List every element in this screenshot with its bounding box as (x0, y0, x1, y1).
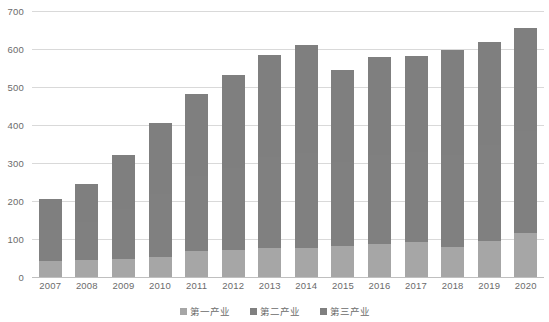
bar-segment[interactable] (258, 248, 281, 277)
bar-segment[interactable] (368, 244, 391, 277)
y-axis: 0100200300400500600700 (0, 11, 28, 277)
legend-item[interactable]: 第三产业 (320, 304, 370, 318)
y-axis-tick-label: 500 (8, 82, 24, 93)
bar-segment[interactable] (222, 250, 245, 277)
bar-segment[interactable] (75, 260, 98, 277)
x-axis-tick-label: 2012 (215, 280, 252, 296)
y-axis-tick-label: 300 (8, 158, 24, 169)
stacked-bar[interactable] (441, 50, 464, 277)
y-axis-tick-label: 700 (8, 6, 24, 17)
x-axis-tick-label: 2010 (142, 280, 179, 296)
bar-slot (471, 11, 508, 277)
bar-slot (178, 11, 215, 277)
bar-segment[interactable] (405, 242, 428, 277)
stacked-bar[interactable] (478, 42, 501, 277)
bar-segment[interactable] (258, 55, 281, 157)
bar-segment[interactable] (258, 157, 281, 248)
x-axis-tick-label: 2020 (508, 280, 545, 296)
legend-item[interactable]: 第二产业 (250, 304, 300, 318)
x-axis-tick-label: 2008 (69, 280, 106, 296)
bar-segment[interactable] (112, 259, 135, 277)
bar-segment[interactable] (39, 230, 62, 261)
bar-slot (215, 11, 252, 277)
bar-segment[interactable] (149, 123, 172, 194)
x-axis-tick-label: 2017 (398, 280, 435, 296)
x-axis: 2007200820092010201120122013201420152016… (32, 280, 544, 296)
stacked-bar[interactable] (368, 57, 391, 277)
bar-slot (434, 11, 471, 277)
bar-segment[interactable] (222, 168, 245, 250)
x-axis-tick-label: 2009 (105, 280, 142, 296)
legend-swatch-icon (320, 308, 327, 315)
bar-segment[interactable] (478, 145, 501, 241)
bar-segment[interactable] (331, 162, 354, 246)
y-axis-tick-label: 200 (8, 196, 24, 207)
stacked-bar[interactable] (295, 45, 318, 277)
legend-label: 第三产业 (330, 304, 370, 318)
stacked-bar[interactable] (75, 184, 98, 277)
bar-segment[interactable] (75, 184, 98, 222)
bar-slot (288, 11, 325, 277)
bar-slot (142, 11, 179, 277)
bar-segment[interactable] (112, 155, 135, 210)
bar-segment[interactable] (441, 155, 464, 247)
bar-segment[interactable] (514, 131, 537, 233)
x-axis-tick-label: 2019 (471, 280, 508, 296)
bar-segment[interactable] (149, 194, 172, 257)
bar-segment[interactable] (112, 209, 135, 259)
bar-segment[interactable] (368, 57, 391, 155)
y-axis-tick-label: 0 (19, 272, 24, 283)
bar-slot (105, 11, 142, 277)
stacked-bar[interactable] (185, 94, 208, 277)
bar-slot (32, 11, 69, 277)
stacked-bar[interactable] (331, 70, 354, 277)
bar-segment[interactable] (441, 247, 464, 277)
stacked-bar[interactable] (258, 55, 281, 277)
bar-slot (361, 11, 398, 277)
stacked-bar[interactable] (149, 123, 172, 277)
bar-segment[interactable] (405, 56, 428, 152)
legend-swatch-icon (180, 308, 187, 315)
bar-segment[interactable] (295, 45, 318, 153)
y-axis-tick-label: 600 (8, 44, 24, 55)
bar-segment[interactable] (405, 152, 428, 242)
bar-segment[interactable] (331, 246, 354, 277)
bar-segment[interactable] (39, 199, 62, 230)
bar-segment[interactable] (441, 50, 464, 155)
bar-segment[interactable] (222, 75, 245, 167)
legend-item[interactable]: 第一产业 (180, 304, 230, 318)
stacked-bar[interactable] (39, 199, 62, 277)
legend-swatch-icon (250, 308, 257, 315)
plot-area (32, 11, 544, 277)
stacked-bar[interactable] (405, 56, 428, 277)
bar-segment[interactable] (185, 176, 208, 251)
bar-segment[interactable] (514, 28, 537, 131)
stacked-bar[interactable] (514, 28, 537, 277)
bar-segment[interactable] (331, 70, 354, 162)
x-axis-tick-label: 2011 (178, 280, 215, 296)
bar-segment[interactable] (478, 241, 501, 277)
x-axis-tick-label: 2016 (361, 280, 398, 296)
bar-slot (325, 11, 362, 277)
stacked-bar[interactable] (112, 155, 135, 277)
bar-segment[interactable] (478, 42, 501, 145)
bar-slot (508, 11, 545, 277)
bar-segment[interactable] (149, 257, 172, 277)
stacked-bar[interactable] (222, 75, 245, 277)
legend-label: 第二产业 (260, 304, 300, 318)
bar-segment[interactable] (368, 155, 391, 244)
bar-segment[interactable] (75, 222, 98, 260)
x-axis-tick-label: 2015 (325, 280, 362, 296)
gridline-0 (32, 277, 544, 278)
x-axis-tick-label: 2007 (32, 280, 69, 296)
bar-series-group (32, 11, 544, 277)
bar-segment[interactable] (514, 233, 537, 277)
bar-segment[interactable] (185, 94, 208, 176)
bar-segment[interactable] (39, 261, 62, 277)
bar-segment[interactable] (295, 153, 318, 248)
x-axis-tick-label: 2013 (251, 280, 288, 296)
bar-segment[interactable] (185, 251, 208, 277)
bar-slot (398, 11, 435, 277)
bar-segment[interactable] (295, 248, 318, 277)
chart-container: 0100200300400500600700 20072008200920102… (0, 0, 549, 322)
